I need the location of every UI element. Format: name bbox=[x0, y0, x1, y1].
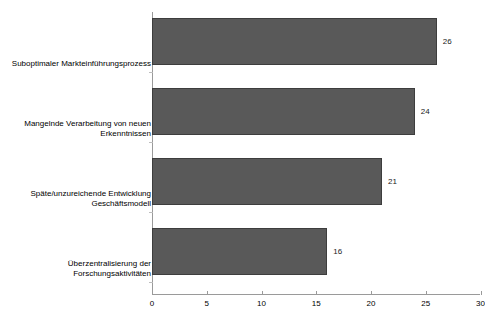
x-tick-label: 30 bbox=[476, 299, 485, 309]
category-label-line: Geschäftsmodell bbox=[1, 199, 151, 209]
category-label-line: Suboptimaler Markteinführungsprozess bbox=[1, 59, 151, 69]
x-tick-label: 25 bbox=[421, 299, 430, 309]
y-tick-mark bbox=[149, 212, 153, 213]
bar[interactable] bbox=[152, 18, 437, 65]
x-tick-mark bbox=[426, 291, 427, 295]
category-label: Überzentralisierung derForschungsaktivit… bbox=[1, 259, 151, 279]
y-tick-mark bbox=[149, 72, 153, 73]
bar-value-label: 26 bbox=[443, 38, 452, 46]
bar-value-label: 21 bbox=[388, 178, 397, 186]
x-tick-mark bbox=[371, 291, 372, 295]
bar[interactable] bbox=[152, 228, 327, 275]
x-tick-label: 5 bbox=[205, 299, 209, 309]
category-label: Mangelnde Verarbeitung von neuenErkenntn… bbox=[1, 119, 151, 139]
x-tick-mark bbox=[152, 291, 153, 295]
category-label: Suboptimaler Markteinführungsprozess bbox=[1, 59, 151, 69]
category-label-line: Erkenntnissen bbox=[1, 129, 151, 139]
x-tick-label: 20 bbox=[367, 299, 376, 309]
x-tick-label: 10 bbox=[257, 299, 266, 309]
x-tick-mark bbox=[207, 291, 208, 295]
bar-value-label: 24 bbox=[421, 108, 430, 116]
y-tick-mark bbox=[149, 282, 153, 283]
bar[interactable] bbox=[152, 88, 415, 135]
category-label-line: Mangelnde Verarbeitung von neuen bbox=[1, 119, 151, 129]
y-tick-mark bbox=[149, 142, 153, 143]
bar-value-label: 16 bbox=[333, 248, 342, 256]
x-tick-label: 15 bbox=[312, 299, 321, 309]
x-tick-label: 0 bbox=[150, 299, 154, 309]
category-label: Späte/unzureichende EntwicklungGeschäfts… bbox=[1, 189, 151, 209]
bar[interactable] bbox=[152, 158, 382, 205]
x-tick-mark bbox=[316, 291, 317, 295]
category-label-line: Überzentralisierung der bbox=[1, 259, 151, 269]
x-tick-mark bbox=[262, 291, 263, 295]
category-label-line: Späte/unzureichende Entwicklung bbox=[1, 189, 151, 199]
x-tick-mark bbox=[481, 291, 482, 295]
category-label-line: Forschungsaktivitäten bbox=[1, 269, 151, 279]
